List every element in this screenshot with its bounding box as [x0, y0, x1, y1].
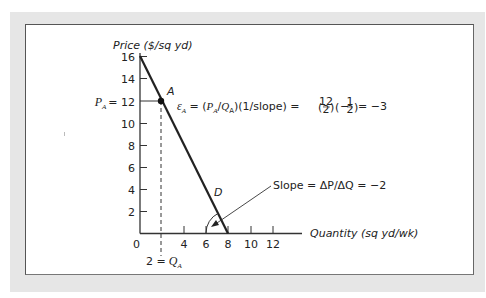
- y-tick-8: 8: [128, 140, 135, 153]
- y-tick-4: 4: [128, 184, 135, 197]
- point-a-label: A: [166, 85, 175, 98]
- y-tick-16: 16: [121, 51, 135, 64]
- slope-label: Slope = ΔP/ΔQ = −2: [273, 179, 386, 192]
- x-tick-4: 4: [181, 238, 188, 251]
- y-ticks: [140, 57, 147, 212]
- y-tick-14: 14: [121, 73, 135, 86]
- elasticity-result: = −3: [358, 100, 387, 113]
- pa-label: PA= 12: [94, 95, 135, 111]
- svg-text:): ): [330, 101, 334, 114]
- demand-chart: Price ($/sq yd) 16 14 10 8 6 4 2 PA= 12 …: [0, 0, 486, 298]
- x-tick-6: 6: [203, 238, 210, 251]
- qa-label: 2 =QA: [146, 254, 182, 270]
- curve-d-label: D: [214, 186, 222, 199]
- svg-text:(: (: [335, 101, 339, 114]
- x-axis-label: Quantity (sq yd/wk): [310, 227, 418, 240]
- x-tick-0: 0: [133, 238, 140, 251]
- x-tick-12: 12: [266, 238, 280, 251]
- y-tick-10: 10: [121, 118, 135, 131]
- y-tick-6: 6: [128, 162, 135, 175]
- arrow-head-icon: [211, 220, 219, 227]
- scan-artifact: [64, 132, 65, 136]
- x-ticks: [184, 226, 273, 233]
- elasticity-fractions: ( 12 2 ) ( − 1 2 ) = −3: [318, 95, 387, 116]
- demand-curve: [140, 56, 228, 234]
- elasticity-formula: εA = (PA/QA)(1/slope) =: [177, 99, 300, 115]
- frac1-den: 2: [323, 103, 330, 116]
- x-tick-8: 8: [225, 238, 232, 251]
- slope-arrow: [214, 186, 271, 225]
- point-a-marker: [158, 98, 164, 104]
- y-tick-2: 2: [128, 206, 135, 219]
- x-tick-10: 10: [244, 238, 258, 251]
- frac2-den: 2: [347, 103, 354, 116]
